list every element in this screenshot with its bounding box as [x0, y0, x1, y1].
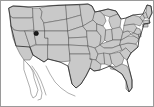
us-map-svg[interactable]	[0, 0, 154, 107]
baja-peninsula-outline	[24, 60, 38, 98]
location-marker-1[interactable]	[34, 31, 38, 35]
baja-inner-outline	[27, 63, 42, 100]
state-kansas	[69, 37, 88, 46]
state-oklahoma	[69, 45, 90, 54]
state-washington	[9, 6, 33, 18]
marker-layer[interactable]	[34, 31, 38, 35]
state-polygons-west[interactable]	[9, 5, 70, 62]
us-map-thumbnail[interactable]	[0, 0, 154, 107]
state-colorado	[45, 31, 69, 45]
state-oregon	[10, 16, 34, 31]
state-indiana	[105, 29, 113, 42]
gulf-of-california-outline	[32, 66, 46, 95]
